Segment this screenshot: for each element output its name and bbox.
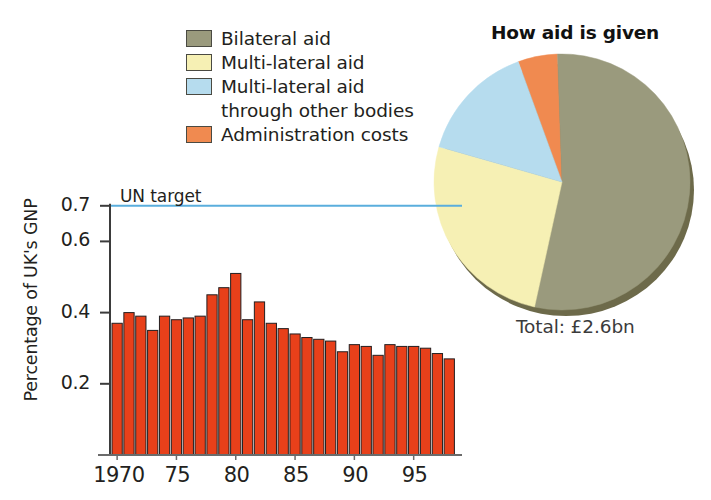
- y-axis-tick-label: 0.7: [44, 193, 90, 215]
- y-axis-tick-label: 0.6: [44, 228, 90, 250]
- bar: [397, 346, 407, 455]
- y-axis-tick-label: 0.2: [44, 371, 90, 393]
- x-axis-tick-label: 85: [283, 463, 309, 487]
- bar: [254, 302, 264, 455]
- bar: [326, 341, 336, 455]
- legend-item: Administration costs: [186, 123, 426, 147]
- bar: [337, 352, 347, 455]
- bar: [385, 345, 395, 455]
- bar: [420, 348, 430, 455]
- bar: [219, 288, 229, 455]
- bar: [409, 346, 419, 455]
- bar: [207, 295, 217, 455]
- pie-total-label: Total: £2.6bn: [516, 316, 711, 337]
- legend-label: through other bodies: [221, 99, 414, 123]
- bar: [112, 323, 122, 455]
- bar: [432, 354, 442, 455]
- legend-swatch-spacer: [186, 102, 212, 119]
- legend-item: Multi-lateral aid: [186, 75, 426, 99]
- x-axis-tick-label: 80: [224, 463, 250, 487]
- pie-chart-title: How aid is given: [460, 22, 690, 43]
- legend-label: Bilateral aid: [221, 27, 331, 51]
- bar: [159, 316, 169, 455]
- bar: [242, 320, 252, 455]
- x-axis-tick-label: 1970: [93, 463, 144, 487]
- legend-swatch-bilateral-aid: [186, 30, 212, 47]
- legend-item: Bilateral aid: [186, 27, 426, 51]
- legend-item: Multi-lateral aid: [186, 51, 426, 75]
- y-axis-title: Percentage of UK's GNP: [21, 185, 41, 415]
- bar-chart-svg: [0, 170, 500, 500]
- bar: [373, 355, 383, 455]
- un-target-annotation-label: UN target: [120, 186, 201, 206]
- bar: [278, 329, 288, 455]
- bar: [349, 345, 359, 455]
- x-axis-tick-label: 90: [342, 463, 368, 487]
- bar: [136, 316, 146, 455]
- bar: [171, 320, 181, 455]
- x-axis-tick-label: 75: [164, 463, 190, 487]
- legend-label: Multi-lateral aid: [221, 75, 365, 99]
- bar: [124, 313, 134, 455]
- bar: [266, 323, 276, 455]
- legend-swatch-administration-costs: [186, 126, 212, 143]
- bar: [231, 273, 241, 455]
- x-axis-tick-label: 95: [402, 463, 428, 487]
- figure-root: Bilateral aid Multi-lateral aid Multi-la…: [0, 0, 711, 500]
- legend-item-continuation: through other bodies: [186, 99, 426, 123]
- bar: [290, 334, 300, 455]
- bar: [314, 339, 324, 455]
- legend-swatch-multi-lateral-aid: [186, 54, 212, 71]
- bar: [195, 316, 205, 455]
- bar: [148, 330, 158, 455]
- bar-chart: Percentage of UK's GNP UN target 0.20.40…: [0, 170, 500, 500]
- legend-swatch-multi-lateral-other-bodies: [186, 78, 212, 95]
- bar: [361, 346, 371, 455]
- bar: [183, 318, 193, 455]
- legend-label: Administration costs: [221, 123, 408, 147]
- legend-label: Multi-lateral aid: [221, 51, 365, 75]
- legend: Bilateral aid Multi-lateral aid Multi-la…: [186, 27, 426, 147]
- bar: [444, 359, 454, 455]
- bar: [302, 338, 312, 455]
- y-axis-tick-label: 0.4: [44, 300, 90, 322]
